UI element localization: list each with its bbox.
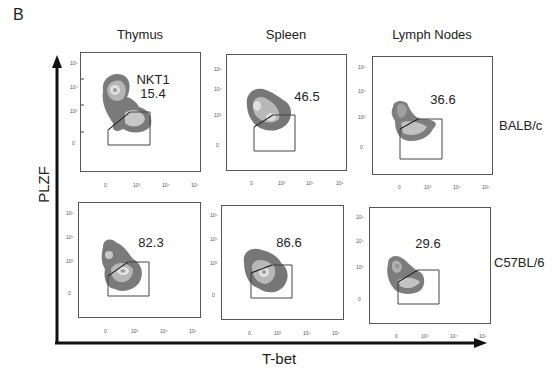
- gate-percentage: 46.5: [287, 89, 327, 104]
- y-tick: 10³: [66, 258, 73, 264]
- x-tick: 10³: [278, 180, 285, 186]
- contour-plot: [222, 206, 345, 321]
- x-tick: 10⁵: [189, 328, 197, 334]
- y-tick: 0: [360, 144, 363, 150]
- plot-c57bl6-thymus: [78, 202, 201, 318]
- x-tick: 10⁵: [479, 333, 487, 339]
- contour-plot: [370, 208, 492, 325]
- y-tick: 0: [358, 296, 361, 302]
- x-tick: 10⁴: [450, 333, 458, 339]
- gate-percentage: 29.6: [408, 236, 448, 251]
- y-tick: 10³: [356, 264, 363, 270]
- y-tick: 10⁵: [210, 212, 218, 218]
- contour-plot: [227, 55, 348, 172]
- y-tick: 10³: [70, 108, 77, 114]
- y-tick: 0: [212, 292, 215, 298]
- y-tick: 10⁵: [70, 60, 78, 66]
- y-axis-label: PLZF: [35, 160, 52, 210]
- y-tick: 10⁵: [356, 214, 364, 220]
- x-tick: 10⁵: [191, 182, 199, 188]
- gate-percentage: 82.3: [131, 235, 171, 250]
- x-tick: 10⁵: [332, 330, 340, 336]
- x-tick: 10⁵: [336, 180, 344, 186]
- plot-balbc-lymph-nodes: [372, 56, 493, 175]
- y-tick: 10⁴: [214, 86, 222, 92]
- y-tick: 10⁵: [214, 66, 222, 72]
- x-tick: 0: [104, 182, 107, 188]
- gate-percentage: 15.4: [128, 86, 178, 101]
- y-tick: 10³: [214, 112, 221, 118]
- y-tick: 0: [216, 142, 219, 148]
- x-tick: 10³: [421, 333, 428, 339]
- plot-balbc-thymus: [80, 52, 201, 172]
- y-tick: 10⁵: [66, 210, 74, 216]
- plot-c57bl6-lymph-nodes: [369, 207, 491, 324]
- x-tick: 0: [248, 330, 251, 336]
- gate-name: NKT1: [128, 72, 178, 87]
- x-tick: 10³: [424, 184, 431, 190]
- plot-balbc-spleen: [226, 54, 347, 171]
- x-tick: 0: [250, 180, 253, 186]
- x-tick: 10⁴: [160, 328, 168, 334]
- x-tick: 10⁴: [453, 184, 461, 190]
- x-tick: 0: [104, 328, 107, 334]
- y-tick: 10⁴: [70, 84, 78, 90]
- x-tick: 10³: [133, 182, 140, 188]
- y-tick: 10³: [210, 260, 217, 266]
- y-tick: 10⁴: [66, 234, 74, 240]
- x-tick: 10³: [274, 330, 281, 336]
- gate-percentage: 86.6: [269, 235, 309, 250]
- x-tick: 10⁴: [303, 330, 311, 336]
- x-axis-label: T-bet: [262, 350, 296, 367]
- x-tick: 0: [395, 333, 398, 339]
- x-tick: 10⁴: [306, 180, 314, 186]
- contour-plot: [79, 203, 202, 319]
- y-tick: 10⁵: [358, 64, 366, 70]
- x-tick: 10⁵: [482, 184, 490, 190]
- gate-percentage: 36.6: [423, 92, 463, 107]
- y-tick: 0: [68, 290, 71, 296]
- x-tick: 0: [398, 184, 401, 190]
- y-tick: 10³: [358, 114, 365, 120]
- x-tick: 10⁴: [162, 182, 170, 188]
- y-tick: 10⁴: [356, 238, 364, 244]
- y-tick: 10⁴: [210, 236, 218, 242]
- contour-plot: [373, 57, 494, 176]
- y-tick: 0: [72, 140, 75, 146]
- plot-c57bl6-spleen: [221, 205, 344, 320]
- x-tick: 10³: [131, 328, 138, 334]
- contour-plot: [81, 53, 202, 173]
- y-tick: 10⁴: [358, 88, 366, 94]
